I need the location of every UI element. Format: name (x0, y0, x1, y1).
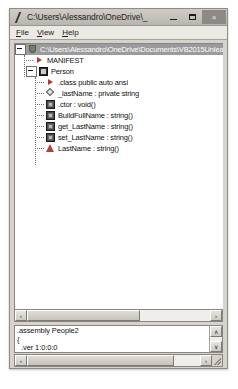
tree-connector (37, 99, 46, 110)
tree-connector (37, 132, 46, 143)
menu-item-file[interactable]: File (14, 28, 35, 37)
tree-row-label: _lastName : private string (58, 89, 139, 98)
tree-row-label: Person (51, 67, 74, 76)
scroll-down-arrow-icon[interactable]: ∨ (210, 341, 222, 352)
tree-connector (37, 143, 46, 154)
menu-item-help-label: elp (68, 28, 79, 37)
manifest-arrow-icon (35, 56, 44, 65)
tree-row-label: .class public auto ansi (58, 78, 128, 87)
tree-row[interactable]: Person (15, 66, 223, 77)
disassembly-line: .ver 1:0:0:0 (17, 344, 209, 352)
scroll-right-arrow-icon[interactable]: › (210, 310, 222, 321)
tree-row[interactable]: .ctor : void() (15, 99, 223, 110)
detail-scroll-left-arrow-icon[interactable]: ‹ (15, 355, 27, 366)
method-icon (46, 133, 55, 142)
tree-row[interactable]: MANIFEST (15, 55, 223, 66)
scroll-left-arrow-icon[interactable]: ‹ (15, 310, 27, 321)
disassembly-line: .assembly People2 (17, 327, 209, 336)
method-icon (46, 111, 55, 120)
tree-row[interactable]: get_LastName : string() (15, 121, 223, 132)
window-controls: × (163, 10, 227, 25)
disassembly-text: .assembly People2{.ver 1:0:0:0 (15, 326, 209, 352)
client-area: C:\Users\Alessandro\OneDrive\Documents\V… (12, 42, 225, 366)
tree-row[interactable]: .class public auto ansi (15, 77, 223, 88)
field-icon (46, 89, 55, 98)
tree-row-label: MANIFEST (47, 56, 84, 65)
menu-item-file-label: ile (21, 28, 29, 37)
tree-horizontal-scrollbar[interactable]: ‹ › (14, 309, 223, 322)
tree-row-label: C:\Users\Alessandro\OneDrive\Documents\V… (40, 45, 223, 54)
detail-scroll-thumb[interactable] (27, 355, 174, 366)
minimize-button[interactable] (164, 10, 182, 24)
scroll-up-arrow-icon[interactable]: ∧ (210, 326, 222, 337)
tree-row-label: .ctor : void() (58, 100, 96, 109)
tree-connector (37, 121, 46, 132)
class-info-arrow-icon (46, 78, 55, 87)
assembly-tree-pane[interactable]: C:\Users\Alessandro\OneDrive\Documents\V… (14, 43, 223, 309)
resize-grip-icon[interactable] (212, 355, 222, 366)
ildasm-window: C:\Users\Alessandro\OneDrive\_ × File Vi… (9, 8, 228, 369)
disassembly-vertical-scrollbar[interactable]: ∧ ∨ (209, 326, 222, 352)
menu-item-help[interactable]: Help (60, 28, 84, 37)
tree-scroll-track[interactable] (27, 310, 210, 321)
tree-connector (37, 88, 46, 99)
method-icon (46, 122, 55, 131)
tree-row[interactable]: set_LastName : string() (15, 132, 223, 143)
collapse-node-icon[interactable] (26, 66, 37, 77)
close-button[interactable]: × (202, 10, 226, 24)
tree-row[interactable]: BuildFullName : string() (15, 110, 223, 121)
menu-item-view-label: iew (42, 28, 54, 37)
maximize-button[interactable] (183, 10, 201, 24)
tree-row[interactable]: _lastName : private string (15, 88, 223, 99)
tree-scroll-thumb[interactable] (27, 310, 140, 321)
title-bar[interactable]: C:\Users\Alessandro\OneDrive\_ × (10, 9, 227, 26)
assembly-tree[interactable]: C:\Users\Alessandro\OneDrive\Documents\V… (15, 44, 223, 309)
tree-row-label: LastName : string() (58, 144, 119, 153)
tree-row[interactable]: LastName : string() (15, 143, 223, 154)
disassembly-pane[interactable]: .assembly People2{.ver 1:0:0:0 ∧ ∨ (14, 325, 223, 353)
tree-row-label: BuildFullName : string() (58, 111, 133, 120)
assembly-shield-icon (28, 45, 37, 54)
window-title: C:\Users\Alessandro\OneDrive\_ (27, 12, 163, 22)
property-icon (46, 144, 55, 153)
tree-connector (37, 77, 46, 88)
tree-row[interactable]: C:\Users\Alessandro\OneDrive\Documents\V… (15, 44, 223, 55)
disassembly-horizontal-scrollbar[interactable]: ‹ › (14, 354, 223, 367)
method-icon (46, 100, 55, 109)
menu-item-view[interactable]: View (35, 28, 60, 37)
tree-row-label: get_LastName : string() (58, 122, 133, 131)
class-icon (39, 67, 48, 76)
detail-scroll-track[interactable] (27, 355, 200, 366)
tree-connector (37, 110, 46, 121)
tree-connector (26, 55, 35, 66)
detail-scroll-right-arrow-icon[interactable]: › (200, 355, 212, 366)
tree-row-label: set_LastName : string() (58, 133, 133, 142)
collapse-node-icon[interactable] (15, 44, 26, 55)
ildasm-icon (13, 12, 24, 23)
menu-bar: File View Help (10, 26, 227, 40)
